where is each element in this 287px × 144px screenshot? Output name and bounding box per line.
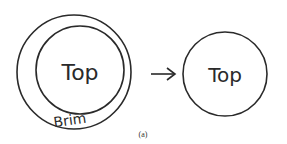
- diagram-canvas: Top Brim Top (a): [0, 0, 287, 144]
- brim-label: Brim: [52, 110, 87, 130]
- arrow-icon: [151, 68, 175, 80]
- right-top-label: Top: [207, 63, 242, 87]
- figure-caption: (a): [139, 130, 148, 139]
- inner-top-label: Top: [60, 60, 98, 85]
- diagram-svg: Top Brim Top (a): [0, 0, 287, 144]
